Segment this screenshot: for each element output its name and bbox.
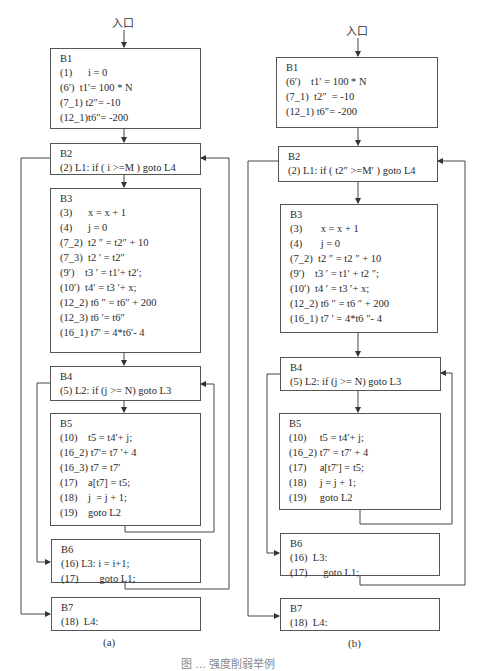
instruction-code: t2 ″ = t2″ + 10: [83, 236, 149, 251]
instruction-row: (4) j = 0: [60, 221, 200, 236]
instruction-row: (17) goto L1;: [61, 572, 200, 587]
instruction-code: i = 0: [72, 66, 107, 81]
instruction-number: (12_3): [60, 311, 88, 326]
instruction-row: (16_2) t7′= t7 ′+ 4: [60, 446, 200, 461]
instruction-code: j = 0: [302, 237, 340, 252]
instruction-row: (3) x = x + 1: [60, 206, 200, 221]
instruction-row: (18) L4:: [61, 615, 200, 630]
instruction-code: t6″= -200: [88, 111, 128, 126]
instruction-code: t7′ = 4*t6′- 4: [88, 326, 145, 341]
instruction-row: (10′) t4 ′ = t3 ′+ x;: [290, 282, 437, 297]
entry-label-b: 入口: [346, 22, 368, 38]
instruction-row: (16_3) t7 = t7′: [60, 461, 200, 476]
instruction-row: (18) L4:: [290, 616, 439, 631]
instruction-code: L2: if (j >= N) goto L3: [302, 375, 401, 390]
instruction-code: t4′ = t3 ′+ x;: [80, 281, 137, 296]
instruction-code: t5 = t4′+ j;: [78, 431, 133, 446]
figure-title: 图 ... 强度削弱举例: [181, 655, 275, 671]
instruction-row: (19) goto L2: [289, 491, 440, 506]
instruction-code: t1′= 100 * N: [75, 81, 133, 96]
instruction-number: (19): [60, 506, 78, 521]
instruction-code: L3:: [308, 551, 328, 566]
instruction-row: (9′) t3 ′ = t1′ + t2 ″;: [290, 267, 437, 282]
instruction-code: L4:: [79, 615, 99, 630]
instruction-number: (5): [60, 384, 72, 399]
instruction-number: (5): [290, 375, 302, 390]
instruction-number: (6′): [286, 75, 301, 90]
block-label: B4: [60, 370, 200, 384]
instruction-number: (16): [290, 551, 308, 566]
instruction-code: a[t7′] = t5;: [307, 461, 365, 476]
block-b4-a: B4 (5) L2: if (j >= N) goto L3: [50, 366, 201, 401]
instruction-code: t6 ″ = t6 ″ + 200: [318, 297, 389, 312]
instruction-number: (10): [60, 431, 78, 446]
instruction-code: t6 ′= t6″: [88, 311, 125, 326]
instruction-number: (12_2): [60, 296, 88, 311]
instruction-code: L4:: [308, 616, 328, 631]
instruction-number: (3): [290, 222, 302, 237]
instruction-code: L3: i = i+1;: [79, 557, 130, 572]
instruction-row: (5) L2: if (j >= N) goto L3: [60, 384, 200, 399]
instruction-number: (19): [289, 491, 307, 506]
instruction-number: (7_2): [60, 236, 83, 251]
instruction-row: (17) a[t7′] = t5;: [289, 461, 440, 476]
instruction-number: (18): [60, 491, 78, 506]
block-label: B2: [288, 150, 437, 164]
instruction-row: (10) t5 = t4′+ j;: [289, 431, 440, 446]
block-b2-a: B2 (2) L1: if ( i >=M ) goto L4: [50, 143, 201, 175]
instruction-row: (12_1)t6″= -200: [60, 111, 200, 126]
block-b3-a: B3 (3) x = x + 1 (4) j = 0 (7_2) t2 ″ = …: [50, 188, 201, 353]
instruction-code: goto L2: [78, 506, 121, 521]
instruction-number: (16_1): [60, 326, 88, 341]
block-label: B2: [60, 147, 200, 161]
instruction-code: a[t7] = t5;: [78, 476, 131, 491]
instruction-number: (16_3): [60, 461, 88, 476]
instruction-row: (7_2) t2 ″ = t2 ″ + 10: [290, 252, 437, 267]
instruction-code: t2 ′ = t2″: [83, 251, 125, 266]
instruction-number: (7_2): [290, 252, 313, 267]
instruction-code: t5 = t4′+ j;: [307, 431, 364, 446]
instruction-number: (7_1): [60, 96, 83, 111]
instruction-number: (6′): [60, 81, 75, 96]
instruction-number: (17): [61, 572, 79, 587]
instruction-code: t3 ′ = t1′+ t2′;: [75, 266, 142, 281]
instruction-code: t6 ″ = t6″ + 200: [88, 296, 156, 311]
instruction-row: (5) L2: if (j >= N) goto L3: [290, 375, 440, 390]
instruction-code: x = x + 1: [302, 222, 358, 237]
instruction-code: goto L1;: [79, 572, 136, 587]
block-label: B5: [289, 417, 440, 431]
instruction-code: j = j + 1;: [78, 491, 127, 506]
instruction-code: L1: if ( i >=M ) goto L4: [72, 161, 175, 176]
instruction-row: (16_2) t7′ = t7′ + 4: [289, 446, 440, 461]
instruction-row: (16_1) t7 ′ = 4*t6 ″- 4: [290, 312, 437, 327]
instruction-code: t3 ′ = t1′ + t2 ″;: [305, 267, 379, 282]
instruction-row: (4) j = 0: [290, 237, 437, 252]
block-label: B1: [60, 52, 200, 66]
instruction-code: x = x + 1: [72, 206, 126, 221]
block-label: B7: [61, 601, 200, 615]
instruction-number: (2): [60, 161, 72, 176]
instruction-number: (17): [289, 461, 307, 476]
instruction-code: t2″= -10: [83, 96, 121, 111]
instruction-code: t2″ = -10: [309, 90, 355, 105]
instruction-code: L2: if (j >= N) goto L3: [72, 384, 171, 399]
instruction-code: L1: if ( t2″ >=M′ ) goto L4: [300, 164, 415, 179]
block-b6-a: B6 (16) L3: i = i+1; (17) goto L1;: [51, 539, 201, 583]
instruction-number: (10): [289, 431, 307, 446]
block-label: B3: [290, 208, 437, 222]
instruction-row: (12_2) t6 ″ = t6″ + 200: [60, 296, 200, 311]
block-label: B6: [61, 543, 200, 557]
instruction-row: (12_2) t6 ″ = t6 ″ + 200: [290, 297, 437, 312]
instruction-code: t7 ′ = 4*t6 ″- 4: [318, 312, 382, 327]
instruction-row: (17) goto L1;: [290, 566, 439, 581]
block-b1-b: B1 (6′) t1′ = 100 * N (7_1) t2″ = -10 (1…: [276, 57, 438, 128]
instruction-row: (7_2) t2 ″ = t2″ + 10: [60, 236, 200, 251]
instruction-code: t2 ″ = t2 ″ + 10: [313, 252, 381, 267]
instruction-code: j = j + 1;: [307, 476, 356, 491]
instruction-number: (7_1): [286, 90, 309, 105]
instruction-row: (6′) t1′ = 100 * N: [286, 75, 437, 90]
block-label: B5: [60, 417, 200, 431]
instruction-row: (16) L3: i = i+1;: [61, 557, 200, 572]
block-b7-b: B7 (18) L4:: [280, 598, 440, 631]
